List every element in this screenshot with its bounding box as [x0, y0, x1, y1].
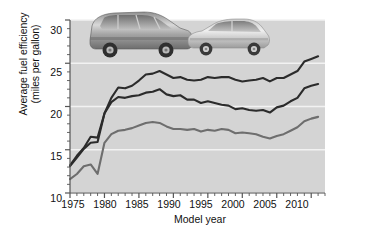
sedan-bodyline	[190, 38, 268, 40]
fuel-efficiency-chart: Average fuel efficiency (miles per gallo…	[0, 0, 365, 233]
suv-bodyline	[90, 37, 192, 40]
plot-area	[0, 0, 365, 233]
